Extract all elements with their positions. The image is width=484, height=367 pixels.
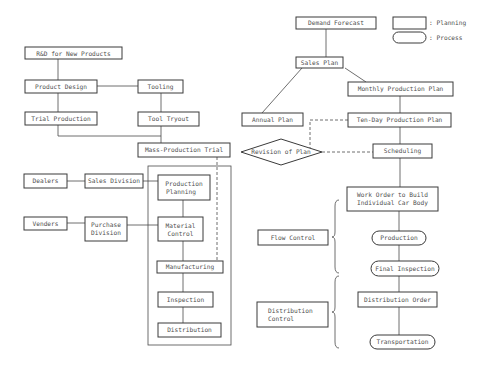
node-label-line-2: Planning [166,188,196,196]
node-trial-production: Trial Production [25,112,97,125]
node-mass-production-trial: Mass-Production Trial [138,143,230,157]
node-transportation: Transportation [370,335,435,349]
node-label: Distribution Order [364,296,431,303]
node-sales-division: Sales Division [85,174,143,188]
edge-dashed-ten-day-to-revision [310,120,348,148]
node-tool-tryout: Tool Tryout [138,112,199,126]
node-label: Sales Division [88,177,140,184]
node-label-line-2: Control [268,315,294,322]
edge-sales-plan-to-annual-plan [262,68,302,113]
node-label: Final Inspection [375,265,435,273]
node-distribution-order: Distribution Order [358,292,437,307]
node-label: Ten-Day Production Plan [357,116,443,124]
node-production-planning: Production Planning [158,175,210,200]
legend-process-label: : Process [429,34,463,41]
connectors-right [262,29,400,335]
node-label: Distribution [167,326,212,333]
flow-control-brace [332,200,339,273]
node-flow-control: Flow Control [258,230,328,245]
node-label-line-2: Control [167,230,193,237]
legend-planning-label: : Planning [429,19,467,27]
node-venders: Venders [24,217,67,230]
node-label: Demand Forecast [308,19,364,26]
node-label: Sales Plan [301,59,339,66]
node-label-line-2: Individual Car Body [357,199,428,207]
node-label: Dealers [32,177,58,184]
node-label: Venders [32,220,58,227]
node-distribution-control: Distribution Control [257,302,328,327]
node-label: Transportation [376,338,428,346]
node-label: Trial Production [31,115,91,122]
legend-planning-symbol [393,17,426,29]
node-label: Annual Plan [252,116,293,123]
node-ten-day-production-plan: Ten-Day Production Plan [348,113,451,127]
node-product-design: Product Design [25,80,97,93]
node-label: Manufacturing [166,263,215,271]
node-work-order: Work Order to Build Individual Car Body [347,187,438,211]
node-label: Production [380,234,418,241]
legend: : Planning : Process [393,17,467,43]
node-final-inspection: Final Inspection [371,261,439,276]
node-label-line-2: Division [91,229,121,236]
node-purchase-division: Purchase Division [85,217,127,241]
distribution-control-brace [332,276,339,348]
node-label: Revision of Plan [251,148,311,155]
node-tooling: Tooling [138,80,183,93]
node-label-line-1: Production [165,180,203,187]
node-label-line-1: Work Order to Build [357,191,428,198]
edge-trial-production-to-mass-trial [58,125,161,136]
node-dealers: Dealers [24,174,67,188]
node-inspection: Inspection [158,292,213,307]
node-production: Production [372,231,426,245]
node-label: Inspection [167,296,205,304]
node-material-control: Material Control [158,217,203,241]
node-label: Mass-Production Trial [145,146,224,153]
production-planning-diagram: : Planning : Process R&D for New Product… [0,0,484,367]
node-label: Tool Tryout [148,115,189,123]
node-label: R&D for New Products [36,50,111,57]
node-label: Flow Control [271,234,316,241]
node-label-line-1: Distribution [268,307,313,314]
node-sales-plan: Sales Plan [296,57,343,68]
node-distribution: Distribution [158,323,221,337]
node-monthly-production-plan: Monthly Production Plan [348,82,453,96]
node-annual-plan: Annual Plan [242,113,303,126]
node-label: Product Design [35,83,87,91]
node-scheduling: Scheduling [373,144,432,158]
node-label: Monthly Production Plan [358,85,444,93]
node-label-line-1: Material [166,222,196,229]
node-label: Tooling [147,83,173,91]
edge-sales-plan-to-monthly-plan [345,68,366,82]
node-label-line-1: Purchase [91,221,121,228]
node-demand-forecast: Demand Forecast [296,17,376,29]
node-label: Scheduling [384,147,422,155]
legend-process-symbol [393,32,426,43]
node-rd-new-products: R&D for New Products [25,47,122,59]
node-manufacturing: Manufacturing [157,261,223,273]
